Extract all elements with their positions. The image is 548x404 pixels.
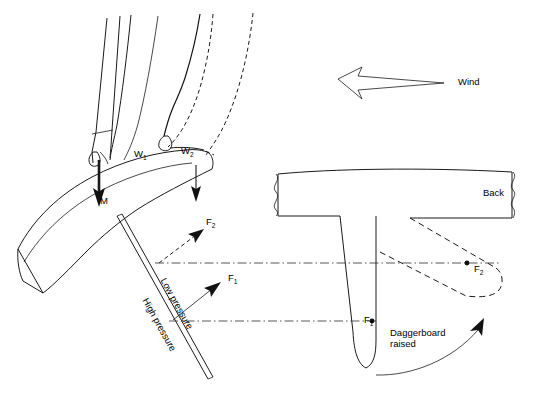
mast-force-label: M — [100, 195, 108, 206]
hull-back-section — [274, 169, 514, 218]
force-f2-label: F2 — [206, 216, 215, 229]
daggerboard-down — [340, 216, 376, 368]
force-f1-label: F1 — [228, 272, 237, 285]
f1-subscript: 1 — [234, 278, 238, 285]
w1-subscript: 1 — [143, 154, 147, 161]
sailing-force-diagram: Wind M W1 W2 F2 F1 F1 F2 Low pressure Hi… — [0, 0, 548, 404]
w2-base: W — [181, 145, 190, 156]
f2-subscript: 2 — [212, 222, 216, 229]
force-f1-back-label: F1 — [364, 314, 373, 327]
daggerboard-raised-label: Daggerboard raised — [390, 328, 445, 350]
daggerboard-raised — [380, 218, 502, 297]
f2b-subscript: 2 — [480, 269, 484, 276]
hull-plan-outline — [18, 150, 213, 293]
f1b-subscript: 1 — [370, 320, 374, 327]
sail-force-w2-label: W2 — [181, 145, 194, 158]
force-arrow-f2 — [159, 229, 204, 263]
w1-base: W — [134, 148, 143, 159]
force-f2-back-label: F2 — [474, 263, 483, 276]
wind-arrow — [338, 67, 444, 99]
force-point-f2-back — [465, 261, 470, 266]
plan-view-group — [18, 13, 500, 379]
force-arrow-w2 — [191, 165, 201, 202]
diagram-canvas — [0, 0, 548, 404]
sail — [110, 14, 204, 160]
daggerboard-raised-line-2: raised — [390, 339, 445, 350]
sail-alternate-position — [168, 13, 253, 155]
sail-force-w1-label: W1 — [134, 148, 147, 161]
wind-label: Wind — [458, 76, 480, 87]
daggerboard-plan — [117, 214, 213, 379]
w2-subscript: 2 — [190, 151, 194, 158]
mast — [89, 16, 120, 166]
back-view-label: Back — [483, 187, 504, 198]
